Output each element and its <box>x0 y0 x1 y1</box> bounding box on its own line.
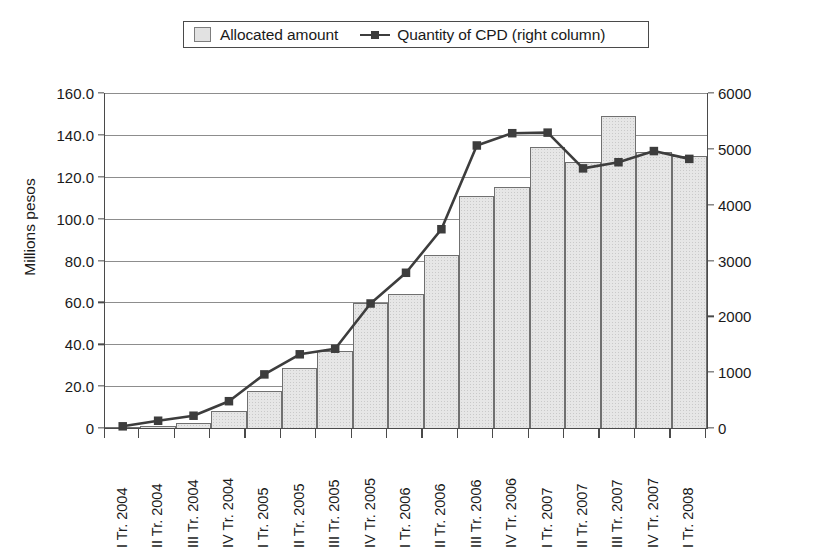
bar-slot <box>494 93 529 428</box>
x-axis-tick-label: III Tr. 2005 <box>327 440 342 548</box>
bar-slot <box>353 93 388 428</box>
x-axis-tickmark <box>529 429 564 438</box>
y-axis-left-tick-label: 0 <box>86 421 94 436</box>
y-axis-right-tickmark <box>708 148 714 149</box>
legend-entry-quantity-of-cpd: Quantity of CPD (right column) <box>360 27 605 43</box>
x-axis-tick-label: II Tr. 2007 <box>575 440 590 548</box>
bar-slot <box>388 93 423 428</box>
x-axis-tick-label: I Tr. 2007 <box>539 440 554 548</box>
legend-label-allocated-amount: Allocated amount <box>220 27 338 43</box>
bar <box>424 255 459 428</box>
y-axis-right-tickmark <box>708 427 714 428</box>
bar-swatch-icon <box>194 27 211 42</box>
x-axis-tick-label: IV Tr. 2004 <box>221 440 236 548</box>
x-axis-tickmark <box>600 429 635 438</box>
bar-slot <box>530 93 565 428</box>
chart-plot-area: I Tr. 2004: 30II Tr. 2004: 130III Tr. 20… <box>104 93 708 429</box>
x-axis-tick-label: I Tr. 2006 <box>398 440 413 548</box>
bar <box>211 411 246 428</box>
bar-slot <box>211 93 246 428</box>
x-axis-label-slot: II Tr. 2004 <box>139 440 174 552</box>
bar <box>672 156 707 428</box>
x-axis-tick-label: III Tr. 2004 <box>185 440 200 548</box>
x-axis-tick-label: III Tr. 2006 <box>469 440 484 548</box>
x-axis-tickmark <box>175 429 210 438</box>
bar-slot <box>105 93 140 428</box>
bar <box>494 187 529 428</box>
y-axis-left-tick-label: 100.0 <box>56 211 94 226</box>
bar <box>317 351 352 428</box>
y-axis-right-tick-label: 0 <box>718 421 726 436</box>
bar-slot <box>282 93 317 428</box>
y-axis-right-tick-label: 2000 <box>718 309 751 324</box>
bar <box>176 423 211 428</box>
x-axis-tickmark <box>281 429 316 438</box>
x-axis-tickmark <box>564 429 599 438</box>
x-axis-tickmark <box>104 429 139 438</box>
bar <box>353 303 388 428</box>
bar <box>636 152 671 428</box>
x-axis-tickmarks <box>104 429 706 438</box>
bar-series-allocated-amount <box>105 93 707 428</box>
line-square-marker-icon <box>360 28 390 41</box>
x-axis-label-slot: III Tr. 2004 <box>175 440 210 552</box>
y-axis-left-tick-label: 60.0 <box>65 295 94 310</box>
x-axis-label-slot: III Tr. 2005 <box>316 440 351 552</box>
x-axis-tick-label: I Tr. 2005 <box>256 440 271 548</box>
bar-slot <box>247 93 282 428</box>
y-axis-left-tick-label: 120.0 <box>56 169 94 184</box>
bar <box>530 147 565 428</box>
y-axis-right-labels: 0100020003000400050006000 <box>718 93 788 428</box>
y-axis-right-tickmark <box>708 316 714 317</box>
bar <box>565 162 600 428</box>
x-axis-tickmark <box>352 429 387 438</box>
x-axis-tick-label: IV Tr. 2005 <box>362 440 377 548</box>
x-axis-tick-label: IV Tr. 2007 <box>646 440 661 548</box>
bar <box>459 196 494 428</box>
chart-legend: Allocated amount Quantity of CPD (right … <box>183 21 649 48</box>
y-axis-right-tick-label: 6000 <box>718 86 751 101</box>
y-axis-right-tickmark <box>708 260 714 261</box>
bar-slot <box>176 93 211 428</box>
y-axis-right-tick-label: 4000 <box>718 197 751 212</box>
x-axis-tickmark <box>423 429 458 438</box>
legend-label-quantity-of-cpd: Quantity of CPD (right column) <box>397 27 605 43</box>
x-axis-tick-label: II Tr. 2004 <box>150 440 165 548</box>
x-axis-tickmark <box>458 429 493 438</box>
x-axis-tickmark <box>210 429 245 438</box>
y-axis-right-tickmarks <box>707 93 714 428</box>
x-axis-tick-label: II Tr. 2006 <box>433 440 448 548</box>
bar-slot <box>317 93 352 428</box>
bar <box>601 116 636 428</box>
x-axis-tick-label: IV Tr. 2006 <box>504 440 519 548</box>
bar <box>282 368 317 428</box>
y-axis-right-tickmark <box>708 372 714 373</box>
bar <box>140 426 175 428</box>
bar-slot <box>459 93 494 428</box>
bar <box>247 391 282 428</box>
x-axis-labels: I Tr. 2004II Tr. 2004III Tr. 2004IV Tr. … <box>104 440 706 552</box>
y-axis-right-tick-label: 1000 <box>718 365 751 380</box>
y-axis-right-tick-label: 5000 <box>718 141 751 156</box>
x-axis-label-slot: III Tr. 2007 <box>600 440 635 552</box>
x-axis-tick-label: III Tr. 2007 <box>610 440 625 548</box>
bar-slot <box>424 93 459 428</box>
x-axis-label-slot: IV Tr. 2005 <box>352 440 387 552</box>
legend-entry-allocated-amount: Allocated amount <box>194 27 338 43</box>
y-axis-right-tick-label: 3000 <box>718 253 751 268</box>
bar-slot <box>565 93 600 428</box>
x-axis-tick-label: II Tr. 2005 <box>291 440 306 548</box>
x-axis-tick-label: I Tr. 2008 <box>681 440 696 548</box>
x-axis-tickmark <box>387 429 422 438</box>
y-axis-right-tickmark <box>708 92 714 93</box>
x-axis-label-slot: I Tr. 2004 <box>104 440 139 552</box>
x-axis-tickmark <box>316 429 351 438</box>
y-axis-left-tick-label: 140.0 <box>56 127 94 142</box>
x-axis-label-slot: II Tr. 2007 <box>564 440 599 552</box>
x-axis-tick-label: I Tr. 2004 <box>114 440 129 548</box>
x-axis-label-slot: II Tr. 2006 <box>423 440 458 552</box>
y-axis-left-tick-label: 160.0 <box>56 86 94 101</box>
bar-slot <box>672 93 707 428</box>
y-axis-left-labels: 020.040.060.080.0100.0120.0140.0160.0 <box>30 93 94 428</box>
x-axis-tickmark <box>635 429 670 438</box>
